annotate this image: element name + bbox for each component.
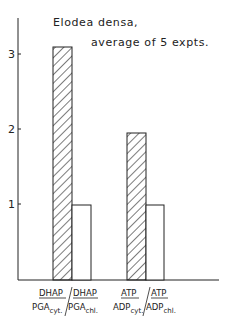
- chart-title: Elodea densa,: [53, 16, 138, 29]
- y-tick-label-3: 3: [8, 48, 15, 61]
- category-label-dhap-pga: DHAP PGAcyt. DHAP PGAchl.: [32, 287, 98, 316]
- y-tick-label-1: 1: [8, 198, 15, 211]
- bar-atp-adp-chl: [146, 205, 164, 280]
- svg-text:PGAchl.: PGAchl.: [68, 302, 98, 315]
- bar-atp-adp-cyt: [127, 133, 146, 280]
- svg-text:DHAP: DHAP: [39, 288, 63, 298]
- svg-text:ATP: ATP: [121, 288, 136, 298]
- svg-text:ADPcyt.: ADPcyt.: [113, 302, 143, 315]
- chart-subtitle: average of 5 expts.: [91, 36, 209, 49]
- bar-dhap-pga-cyt: [53, 47, 72, 280]
- category-label-atp-adp: ATP ADPcyt. ATP ADPchl.: [113, 287, 176, 316]
- svg-text:PGAcyt.: PGAcyt.: [32, 302, 63, 315]
- svg-text:DHAP: DHAP: [73, 288, 97, 298]
- bar-chart: 3 2 1 Elodea densa, average of 5 expts. …: [0, 0, 231, 336]
- svg-text:ATP: ATP: [151, 288, 166, 298]
- bar-dhap-pga-chl: [72, 205, 91, 280]
- svg-text:ADPchl.: ADPchl.: [146, 302, 176, 315]
- y-tick-label-2: 2: [8, 123, 15, 136]
